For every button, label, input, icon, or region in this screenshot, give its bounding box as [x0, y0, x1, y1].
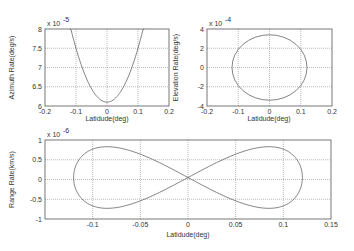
x-tick-label: 0.05 — [229, 221, 243, 228]
x-tick-label: -0.1 — [87, 221, 99, 228]
x-axis-label: Latidude(deg) — [247, 115, 290, 123]
x-tick-label: 0 — [268, 108, 272, 115]
y-tick-label: 0.5 — [32, 156, 42, 163]
y-multiplier: x 10 — [47, 20, 60, 27]
figure: -0.2-0.100.10.266.577.58x 10-5Latidude(d… — [0, 0, 354, 251]
y-multiplier-exponent: -5 — [63, 16, 69, 23]
y-axis-label: Range Rate(km/s) — [8, 151, 16, 208]
x-tick-label: 0 — [186, 221, 190, 228]
y-tick-label: 8 — [38, 26, 42, 33]
range-rate-plot: -0.1-0.0500.050.10.15-1-0.500.51x 10-6La… — [8, 127, 338, 239]
y-tick-label: 0 — [200, 64, 204, 71]
x-tick-label: 0.1 — [278, 221, 288, 228]
x-tick-label: 0.1 — [133, 108, 143, 115]
x-tick-label: 0.2 — [327, 108, 337, 115]
azimuth-rate-plot: -0.2-0.100.10.266.577.58x 10-5Latidude(d… — [8, 16, 174, 123]
y-tick-label: 6 — [38, 103, 42, 110]
y-tick-label: 1 — [38, 137, 42, 144]
x-tick-label: 0 — [105, 108, 109, 115]
y-tick-label: 6.5 — [32, 83, 42, 90]
y-tick-label: -1 — [36, 216, 42, 223]
y-tick-label: 7.5 — [32, 45, 42, 52]
x-tick-label: -0.05 — [132, 221, 148, 228]
x-tick-label: -0.1 — [70, 108, 82, 115]
y-tick-label: 7 — [38, 64, 42, 71]
x-axis-label: Latidude(deg) — [85, 115, 128, 123]
y-axis-label: Azimuth Rate(deg/s) — [8, 36, 16, 100]
y-tick-label: -2 — [198, 83, 204, 90]
y-tick-label: 0 — [38, 176, 42, 183]
y-tick-label: -4 — [198, 103, 204, 110]
y-axis-label: Elevation Rate(deg/s) — [172, 34, 180, 101]
y-multiplier: x 10 — [209, 20, 222, 27]
y-tick-label: -0.5 — [30, 196, 42, 203]
y-tick-label: 2 — [200, 45, 204, 52]
elevation-rate-plot: -0.2-0.100.10.2-4-2024x 10-4Latidude(deg… — [172, 16, 337, 123]
x-tick-label: -0.1 — [232, 108, 244, 115]
x-axis-label: Latidude(deg) — [166, 231, 209, 239]
y-multiplier-exponent: -4 — [225, 16, 231, 23]
x-tick-label: 0.15 — [324, 221, 338, 228]
y-multiplier-exponent: -6 — [63, 127, 69, 134]
y-tick-label: 4 — [200, 26, 204, 33]
x-tick-label: 0.2 — [164, 108, 174, 115]
x-tick-label: 0.1 — [296, 108, 306, 115]
y-multiplier: x 10 — [47, 131, 60, 138]
